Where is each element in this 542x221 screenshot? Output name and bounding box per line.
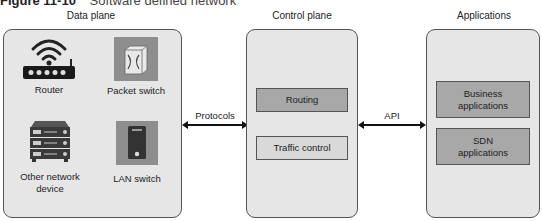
device-label: Packet switch [96,85,176,97]
device-label: LAN switch [99,173,175,185]
server-rack-icon [27,119,73,165]
data-plane-title: Data plane [0,10,182,21]
sdn-applications-box: SDN applications [436,128,530,165]
device-label: Other network device [8,171,92,195]
figure-caption: Software defined network [90,0,237,8]
protocols-bidirectional-arrow [184,124,246,126]
applications-title: Applications [426,10,542,21]
control-plane-panel [246,29,358,218]
device-router: Router [10,35,88,96]
protocols-label: Protocols [188,110,242,121]
api-bidirectional-arrow [360,124,424,126]
api-label: API [370,110,414,121]
business-applications-label: Business applications [448,88,518,112]
device-lan-switch: LAN switch [99,121,175,185]
routing-box: Routing [256,88,348,112]
device-label: Router [10,84,88,96]
routing-label: Routing [286,94,319,106]
applications-panel [426,29,540,218]
sdn-applications-label: SDN applications [448,135,518,159]
packet-switch-icon [114,37,158,81]
figure-number: Figure 11-10 [0,0,76,8]
lan-switch-icon [116,121,158,165]
control-plane-title: Control plane [246,10,358,21]
business-applications-box: Business applications [436,81,530,118]
device-other-network: Other network device [8,119,92,195]
device-packet-switch: Packet switch [96,37,176,97]
traffic-control-box: Traffic control [256,136,348,160]
traffic-control-label: Traffic control [273,142,330,154]
figure-title: Figure 11-10 Software defined network [0,0,236,8]
wifi-router-icon [19,35,79,81]
